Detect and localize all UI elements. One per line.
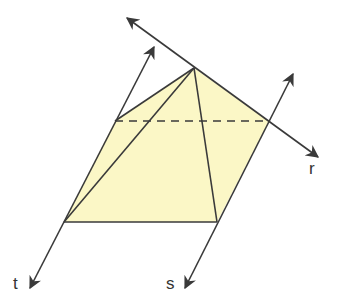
- pyramid-base-face: [64, 121, 269, 222]
- label-r: r: [309, 159, 315, 178]
- label-t: t: [13, 274, 18, 293]
- label-s: s: [166, 274, 175, 293]
- pyramid-diagram: r s t: [0, 0, 339, 299]
- pyramid-back-faces: [115, 68, 269, 121]
